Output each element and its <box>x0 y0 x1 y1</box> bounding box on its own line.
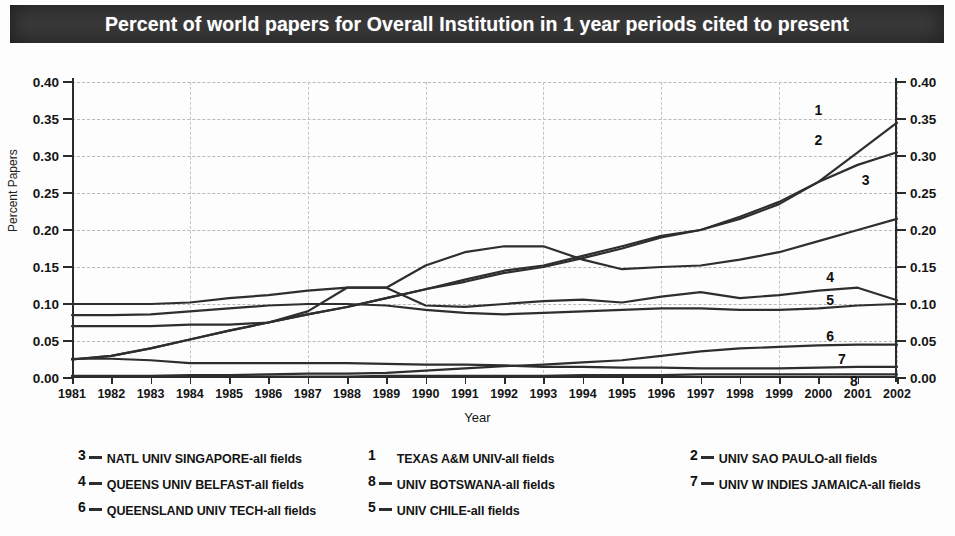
legend-line-swatch <box>89 482 102 485</box>
chart-legend: 3NATL UNIV SINGAPORE-all fields1TEXAS A&… <box>0 448 955 534</box>
y-tick-mark <box>897 266 906 268</box>
x-tick-mark <box>268 378 270 384</box>
legend-label: UNIV W INDIES JAMAICA-all fields <box>719 478 921 492</box>
y-axis-tick-label: 0.05 <box>33 334 59 349</box>
x-axis-tick-label: 1999 <box>765 387 793 401</box>
legend-line-swatch <box>379 508 392 511</box>
y-tick-mark <box>897 81 906 83</box>
x-axis-tick-label: 1997 <box>687 387 715 401</box>
series-number-label: 1 <box>815 102 823 118</box>
legend-item[interactable]: 5UNIV CHILE-all fields <box>368 500 520 518</box>
y-axis-tick-label: 0.20 <box>910 223 936 238</box>
x-tick-mark <box>622 378 624 384</box>
y-axis-title: Percent Papers <box>6 149 20 232</box>
x-axis-tick-label: 1990 <box>412 387 440 401</box>
legend-item[interactable]: 2UNIV SAO PAULO-all fields <box>690 448 877 466</box>
chart-title-banner: Percent of world papers for Overall Inst… <box>10 5 944 43</box>
x-tick-mark <box>308 378 310 384</box>
y-tick-mark <box>63 377 72 379</box>
legend-item[interactable]: 3NATL UNIV SINGAPORE-all fields <box>78 448 302 466</box>
y-tick-mark <box>897 340 906 342</box>
y-axis-tick-label: 0.10 <box>33 297 59 312</box>
legend-series-number: 5 <box>368 500 376 514</box>
y-axis-tick-label: 0.20 <box>33 223 59 238</box>
series-line <box>72 345 897 376</box>
legend-label: QUEENS UNIV BELFAST-all fields <box>107 478 304 492</box>
legend-item[interactable]: 8UNIV BOTSWANA-all fields <box>368 474 555 492</box>
y-tick-mark <box>63 303 72 305</box>
legend-line-swatch <box>701 456 714 459</box>
legend-series-number: 3 <box>78 448 86 462</box>
y-axis-tick-label: 0.35 <box>910 112 936 127</box>
legend-series-number: 4 <box>78 474 86 488</box>
x-axis-tick-label: 1985 <box>215 387 243 401</box>
y-axis-tick-label: 0.00 <box>33 371 59 386</box>
legend-label: UNIV CHILE-all fields <box>397 504 520 518</box>
x-axis-tick-label: 1996 <box>647 387 675 401</box>
y-axis-tick-label: 0.15 <box>33 260 59 275</box>
y-axis-tick-label: 0.05 <box>910 334 936 349</box>
legend-item[interactable]: 6QUEENSLAND UNIV TECH-all fields <box>78 500 316 518</box>
x-axis-tick-label: 2002 <box>883 387 911 401</box>
x-tick-mark <box>701 378 703 384</box>
plot-area: 0.000.000.050.050.100.100.150.150.200.20… <box>72 82 897 378</box>
x-axis-tick-label: 1988 <box>333 387 361 401</box>
series-number-label: 8 <box>850 373 858 389</box>
x-axis-tick-label: 1983 <box>137 387 165 401</box>
x-axis-tick-label: 1987 <box>294 387 322 401</box>
x-axis-tick-label: 2000 <box>805 387 833 401</box>
x-tick-mark <box>858 378 860 384</box>
y-tick-mark <box>897 118 906 120</box>
y-tick-mark <box>63 340 72 342</box>
x-axis-tick-label: 1986 <box>255 387 283 401</box>
chart-container: Percent of world papers for Overall Inst… <box>0 0 955 536</box>
x-axis-tick-label: 2001 <box>844 387 872 401</box>
x-axis-tick-label: 1989 <box>372 387 400 401</box>
legend-series-number: 7 <box>690 474 698 488</box>
x-tick-mark <box>897 378 899 384</box>
y-axis-tick-label: 0.40 <box>910 75 936 90</box>
x-axis-tick-label: 1998 <box>726 387 754 401</box>
x-tick-mark <box>426 378 428 384</box>
y-tick-mark <box>63 266 72 268</box>
legend-series-number: 6 <box>78 500 86 514</box>
y-tick-mark <box>897 192 906 194</box>
legend-series-number: 2 <box>690 448 698 462</box>
y-tick-mark <box>63 192 72 194</box>
y-axis-tick-label: 0.30 <box>33 149 59 164</box>
x-axis-tick-label: 1995 <box>608 387 636 401</box>
series-number-label: 7 <box>838 351 846 367</box>
y-tick-mark <box>897 303 906 305</box>
y-tick-mark <box>63 229 72 231</box>
x-tick-mark <box>72 378 74 384</box>
x-axis-tick-label: 1992 <box>490 387 518 401</box>
y-axis-tick-label: 0.35 <box>33 112 59 127</box>
series-number-label: 5 <box>826 292 834 308</box>
x-tick-mark <box>111 378 113 384</box>
x-axis-tick-label: 1981 <box>58 387 86 401</box>
legend-label: NATL UNIV SINGAPORE-all fields <box>107 452 302 466</box>
series-number-label: 6 <box>826 328 834 344</box>
legend-line-swatch <box>701 482 714 485</box>
y-axis-tick-label: 0.40 <box>33 75 59 90</box>
series-number-label: 4 <box>826 269 834 285</box>
x-axis-tick-label: 1984 <box>176 387 204 401</box>
x-tick-mark <box>818 378 820 384</box>
series-lines <box>72 82 897 378</box>
x-axis-tick-label: 1991 <box>451 387 479 401</box>
y-axis-tick-label: 0.25 <box>33 186 59 201</box>
x-tick-mark <box>229 378 231 384</box>
y-tick-mark <box>897 229 906 231</box>
y-tick-mark <box>63 81 72 83</box>
series-number-label: 2 <box>815 132 823 148</box>
legend-item[interactable]: 1TEXAS A&M UNIV-all fields <box>368 448 554 466</box>
legend-item[interactable]: 7UNIV W INDIES JAMAICA-all fields <box>690 474 920 492</box>
y-tick-mark <box>897 155 906 157</box>
y-axis-tick-label: 0.10 <box>910 297 936 312</box>
series-line <box>72 288 897 307</box>
page-title: Percent of world papers for Overall Inst… <box>105 13 849 36</box>
legend-item[interactable]: 4QUEENS UNIV BELFAST-all fields <box>78 474 304 492</box>
legend-label: TEXAS A&M UNIV-all fields <box>397 452 554 466</box>
x-tick-mark <box>347 378 349 384</box>
legend-series-number: 1 <box>368 448 376 462</box>
